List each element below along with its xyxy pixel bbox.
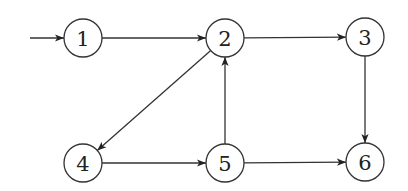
graph-diagram: 123456	[0, 0, 408, 191]
node-2: 2	[206, 19, 244, 57]
edge-2-to-4	[97, 51, 210, 151]
node-label: 6	[358, 151, 371, 175]
node-label: 3	[358, 26, 371, 50]
node-4: 4	[64, 144, 102, 182]
node-label: 2	[218, 27, 231, 51]
edge-5-to-6	[244, 162, 346, 163]
node-label: 4	[76, 152, 89, 176]
edge-2-to-3	[244, 37, 346, 38]
node-label: 5	[218, 152, 231, 176]
node-1: 1	[64, 19, 102, 57]
node-3: 3	[346, 18, 384, 56]
node-label: 1	[76, 27, 89, 51]
node-6: 6	[346, 143, 384, 181]
node-5: 5	[206, 144, 244, 182]
nodes: 123456	[64, 18, 384, 182]
